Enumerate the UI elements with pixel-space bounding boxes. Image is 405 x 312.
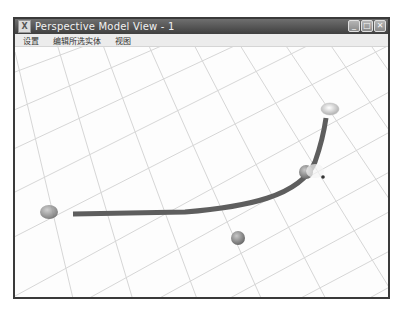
close-button[interactable]: ✕ (374, 20, 386, 32)
window-title: Perspective Model View - 1 (35, 21, 175, 32)
minimize-button[interactable]: _ (348, 20, 360, 32)
title-bar[interactable]: X Perspective Model View - 1 _ □ ✕ (15, 19, 388, 34)
curve-path[interactable] (73, 118, 326, 214)
maximize-button[interactable]: □ (361, 20, 373, 32)
window-controls: _ □ ✕ (348, 20, 386, 32)
scene-canvas[interactable] (15, 47, 388, 297)
control-point-start (40, 205, 58, 219)
selection-gizmo (306, 164, 324, 178)
menu-bar: 设置 编辑所选实体 视图 (15, 34, 388, 47)
control-point-mid (231, 231, 245, 245)
menu-view[interactable]: 视图 (115, 35, 131, 46)
control-point-end (321, 103, 339, 115)
app-icon: X (18, 20, 31, 33)
menu-settings[interactable]: 设置 (23, 35, 39, 46)
grid-floor (15, 47, 388, 297)
perspective-model-view-window: X Perspective Model View - 1 _ □ ✕ 设置 编辑… (13, 17, 390, 299)
gizmo-dot (321, 175, 325, 179)
menu-edit-selected-entity[interactable]: 编辑所选实体 (53, 35, 101, 46)
3d-viewport[interactable] (15, 47, 388, 297)
